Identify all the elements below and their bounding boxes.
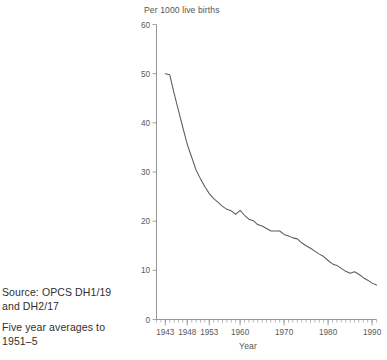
x-axis-title: Year (239, 341, 257, 351)
x-tick-label: 1970 (275, 328, 294, 337)
x-tick-label: 1960 (231, 328, 250, 337)
y-tick-label: 0 (145, 316, 150, 325)
x-tick-label: 1980 (319, 328, 338, 337)
figure-infant-mortality: Per 1000 live births 0102030405060 19431… (0, 0, 387, 360)
caption-source-line-2: and DH2/17 (2, 300, 138, 314)
y-tick-label: 40 (141, 119, 151, 128)
y-tick-label: 30 (141, 168, 151, 177)
y-axis-tick-labels: 0102030405060 (141, 21, 151, 325)
x-tick-label: 1990 (363, 328, 382, 337)
caption-note-line-2: 1951–5 (2, 335, 138, 349)
x-tick-label: 1948 (178, 328, 197, 337)
chart-title: Per 1000 live births (144, 5, 220, 15)
y-tick-label: 50 (141, 70, 151, 79)
y-tick-label: 20 (141, 217, 151, 226)
y-tick-label: 10 (141, 266, 151, 275)
y-tick-label: 60 (141, 21, 151, 30)
x-axis-tick-labels: 1943194819531960197019801990 (156, 328, 381, 337)
caption-source-line-1: Source: OPCS DH1/19 (2, 286, 138, 300)
y-axis-ticks (153, 25, 157, 320)
caption-source: Source: OPCS DH1/19 and DH2/17 (2, 286, 138, 313)
x-axis-minor-ticks (157, 320, 377, 323)
series-line-infant-mortality (165, 74, 376, 285)
x-tick-label: 1953 (200, 328, 219, 337)
caption-note: Five year averages to 1951–5 (2, 321, 138, 348)
caption-note-line-1: Five year averages to (2, 321, 138, 335)
x-tick-label: 1943 (156, 328, 175, 337)
